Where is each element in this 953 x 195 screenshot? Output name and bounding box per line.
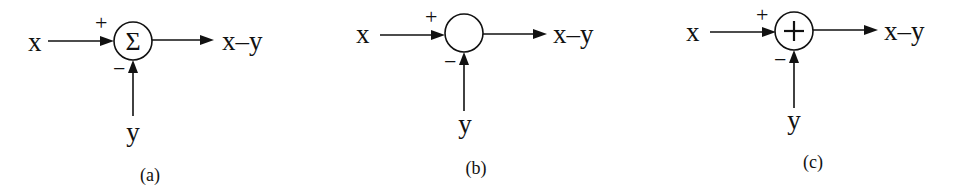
arrow-head-icon xyxy=(533,29,547,39)
caption-c: (c) xyxy=(803,152,823,173)
input-y-label: y xyxy=(126,117,140,147)
summing-junction-figure: x + Σ x–y − y (a) x + x–y − y (b) x + xyxy=(0,0,953,195)
plus-sign: + xyxy=(95,10,107,35)
arrow-head-icon xyxy=(128,60,138,73)
arrow-head-icon xyxy=(200,35,214,45)
output-label: x–y xyxy=(222,26,263,56)
arrow-head-icon xyxy=(789,50,799,63)
summing-circle xyxy=(445,14,483,52)
arrow-head-icon xyxy=(100,36,114,46)
minus-sign: − xyxy=(113,56,125,81)
caption-a: (a) xyxy=(140,165,160,186)
plus-sign: + xyxy=(756,2,768,27)
sigma-symbol: Σ xyxy=(125,27,140,56)
output-label: x–y xyxy=(553,19,594,49)
summing-junction-c: x + x–y − y (c) xyxy=(686,2,925,173)
plus-sign: + xyxy=(425,4,437,29)
summing-junction-b: x + x–y − y (b) xyxy=(356,4,594,179)
input-x-label: x xyxy=(356,19,370,49)
arrow-head-icon xyxy=(431,30,445,40)
arrow-head-icon xyxy=(459,52,469,65)
arrow-head-icon xyxy=(864,25,878,35)
input-x-label: x xyxy=(28,27,42,57)
caption-b: (b) xyxy=(466,158,487,179)
minus-sign: − xyxy=(774,47,786,72)
input-y-label: y xyxy=(787,105,801,135)
output-label: x–y xyxy=(884,16,925,46)
input-y-label: y xyxy=(458,109,472,139)
minus-sign: − xyxy=(444,49,456,74)
input-x-label: x xyxy=(686,17,700,47)
arrow-head-icon xyxy=(762,27,776,37)
summing-junction-a: x + Σ x–y − y (a) xyxy=(28,10,263,186)
